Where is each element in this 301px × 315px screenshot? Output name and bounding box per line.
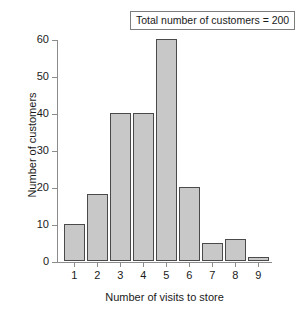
x-axis-line <box>57 262 272 263</box>
bar <box>110 113 131 261</box>
bar <box>133 113 154 261</box>
y-tick: 0 <box>52 262 57 263</box>
y-tick-label: 0 <box>43 255 49 267</box>
y-tick-label: 30 <box>37 144 49 156</box>
bar <box>202 243 223 262</box>
x-tick <box>74 262 75 267</box>
y-tick-label: 50 <box>37 70 49 82</box>
x-tick-label: 7 <box>202 269 222 281</box>
y-tick: 20 <box>52 188 57 189</box>
bar <box>248 257 269 261</box>
y-tick: 10 <box>52 225 57 226</box>
total-customers-annotation: Total number of customers = 200 <box>130 11 295 30</box>
x-tick <box>97 262 98 267</box>
x-tick <box>212 262 213 267</box>
y-tick: 30 <box>52 151 57 152</box>
bar <box>179 187 200 261</box>
x-tick <box>189 262 190 267</box>
bar <box>225 239 246 261</box>
x-tick-label: 8 <box>225 269 245 281</box>
x-tick <box>143 262 144 267</box>
y-tick: 40 <box>52 114 57 115</box>
x-tick-label: 4 <box>133 269 153 281</box>
bar-chart: Total number of customers = 200 Number o… <box>0 0 301 315</box>
x-tick <box>120 262 121 267</box>
x-tick <box>166 262 167 267</box>
x-tick-label: 3 <box>110 269 130 281</box>
x-axis-title: Number of visits to store <box>57 291 272 303</box>
y-axis-line <box>57 40 58 263</box>
y-tick-label: 10 <box>37 218 49 230</box>
x-tick <box>258 262 259 267</box>
bar <box>64 224 85 261</box>
x-tick-label: 5 <box>156 269 176 281</box>
bar <box>156 39 177 261</box>
x-tick-label: 9 <box>248 269 268 281</box>
y-tick-label: 20 <box>37 181 49 193</box>
x-tick <box>235 262 236 267</box>
y-tick-label: 40 <box>37 107 49 119</box>
x-tick-label: 2 <box>87 269 107 281</box>
plot-area: 0102030405060 123456789 <box>57 40 272 262</box>
x-tick-label: 1 <box>64 269 84 281</box>
y-tick: 50 <box>52 77 57 78</box>
bar <box>87 194 108 261</box>
x-tick-label: 6 <box>179 269 199 281</box>
y-tick: 60 <box>52 40 57 41</box>
y-tick-label: 60 <box>37 33 49 45</box>
